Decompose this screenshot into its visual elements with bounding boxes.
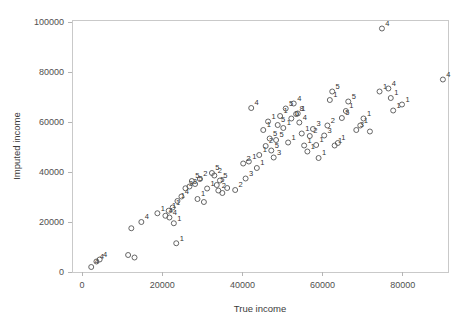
chart-canvas: 020000400006000080000 020000400006000080…: [0, 0, 466, 335]
data-point-label: 1: [292, 133, 296, 142]
x-axis-title: True income: [234, 303, 286, 314]
data-point-label: 1: [333, 90, 337, 99]
x-tick-label: 80000: [390, 280, 415, 290]
data-point-marker: [195, 197, 200, 202]
data-point-label: 1: [201, 189, 205, 198]
data-point-label: 2: [331, 116, 335, 125]
data-point-marker: [327, 98, 332, 103]
data-point-label: 4: [255, 98, 259, 107]
data-point-label: 2: [218, 166, 222, 175]
data-point-label: 3: [316, 119, 320, 128]
data-point-label: 4: [145, 212, 149, 221]
data-point-label: 5: [281, 115, 285, 124]
data-point-marker: [243, 176, 248, 181]
data-point-marker: [89, 265, 94, 270]
data-point-label: 1: [349, 101, 353, 110]
y-tick-label: 40000: [39, 167, 64, 177]
y-axis-title: Imputed income: [11, 112, 22, 180]
data-point-label: 1: [161, 204, 165, 213]
data-point-marker: [316, 156, 321, 161]
data-point-marker: [126, 253, 131, 258]
data-point-marker: [271, 155, 276, 160]
data-point-marker: [233, 188, 238, 193]
data-point-label: 3: [277, 148, 281, 157]
data-point-marker: [174, 241, 179, 246]
data-point-label: 2: [203, 169, 207, 178]
y-tick-label: 80000: [39, 67, 64, 77]
data-point-label: 1: [252, 152, 256, 161]
data-point-label: 1: [211, 179, 215, 188]
data-point-marker: [132, 255, 137, 260]
data-point-label: 4: [297, 94, 301, 103]
data-point-marker: [205, 186, 210, 191]
y-tick-label: 0: [59, 267, 64, 277]
x-tick-label: 0: [79, 280, 84, 290]
data-points-layer: 4444141411114335512152525223141112155355…: [89, 19, 451, 270]
x-axis-ticks: 020000400006000080000: [79, 272, 415, 290]
data-point-marker: [254, 166, 259, 171]
data-point-marker: [299, 131, 304, 136]
x-tick-label: 40000: [230, 280, 255, 290]
data-point-label: 2: [247, 154, 251, 163]
data-point-marker: [367, 129, 372, 134]
y-tick-label: 60000: [39, 117, 64, 127]
data-point-marker: [297, 120, 302, 125]
plot-frame: [72, 20, 448, 272]
data-point-marker: [354, 128, 359, 133]
data-point-marker: [171, 221, 176, 226]
data-point-marker: [139, 220, 144, 225]
data-point-label: 4: [385, 19, 389, 28]
data-point-marker: [155, 211, 160, 216]
data-point-label: 4: [446, 70, 450, 79]
data-point-label: 1: [322, 148, 326, 157]
data-point-label: 5: [273, 129, 277, 138]
y-tick-label: 20000: [39, 217, 64, 227]
data-point-marker: [391, 108, 396, 113]
data-point-marker: [220, 191, 225, 196]
data-point-label: 1: [394, 88, 398, 97]
data-point-marker: [257, 153, 262, 158]
data-point-marker: [388, 96, 393, 101]
y-tick-label: 100000: [34, 17, 64, 27]
data-point-label: 3: [249, 169, 253, 178]
data-point-marker: [377, 89, 382, 94]
data-point-label: 1: [305, 124, 309, 133]
plot-frame-border: [72, 20, 448, 272]
data-point-marker: [214, 183, 219, 188]
data-point-label: 1: [177, 214, 181, 223]
data-point-label: 1: [405, 95, 409, 104]
data-point-marker: [339, 116, 344, 121]
data-point-label: 4: [103, 250, 107, 259]
data-point-marker: [286, 140, 291, 145]
data-point-label: 1: [180, 234, 184, 243]
data-point-label: 5: [336, 82, 340, 91]
data-point-marker: [261, 128, 266, 133]
data-point-marker: [302, 143, 307, 148]
data-point-label: 1: [260, 158, 264, 167]
data-point-marker: [275, 123, 280, 128]
y-axis-ticks: 020000400006000080000100000: [34, 17, 72, 277]
data-point-label: 1: [271, 112, 275, 121]
scatter-chart: 020000400006000080000 020000400006000080…: [0, 0, 466, 335]
data-point-marker: [379, 26, 384, 31]
data-point-marker: [440, 77, 445, 82]
data-point-label: 5: [223, 171, 227, 180]
data-point-marker: [241, 161, 246, 166]
x-tick-label: 20000: [150, 280, 175, 290]
data-point-marker: [201, 200, 206, 205]
data-point-marker: [305, 149, 310, 154]
data-point-label: 1: [341, 133, 345, 142]
data-point-marker: [249, 106, 254, 111]
data-point-label: 5: [352, 92, 356, 101]
data-point-label: 2: [222, 181, 226, 190]
data-point-marker: [269, 148, 274, 153]
data-point-label: 1: [367, 109, 371, 118]
data-point-label: 4: [392, 79, 396, 88]
data-point-label: 1: [301, 104, 305, 113]
data-point-label: 5: [279, 130, 283, 139]
data-point-marker: [129, 226, 134, 231]
data-point-label: 2: [239, 180, 243, 189]
x-tick-label: 60000: [310, 280, 335, 290]
data-point-label: 4: [303, 113, 307, 122]
